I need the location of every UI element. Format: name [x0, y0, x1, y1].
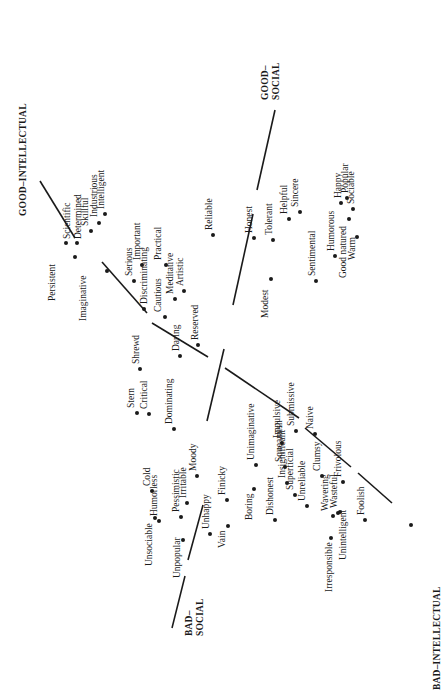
trait-dot [105, 269, 109, 273]
trait-dot [269, 277, 273, 281]
trait-label: Unreliable [298, 461, 308, 501]
trait-dot [226, 524, 230, 528]
trait-dot [195, 474, 199, 478]
trait-dot [252, 487, 256, 491]
trait-dot [138, 367, 142, 371]
trait-label: Scientific [63, 203, 73, 239]
trait-dot [73, 255, 77, 259]
trait-dot [163, 315, 167, 319]
trait-label: Intelligent [97, 170, 107, 209]
trait-dot [287, 217, 291, 221]
trait-dot [178, 354, 182, 358]
trait-dot [182, 289, 186, 293]
trait-label: Reliable [205, 198, 215, 230]
trait-dot [273, 518, 277, 522]
trait-dot [333, 254, 337, 258]
trait-label: Persistent [48, 264, 58, 301]
trait-dot [75, 241, 79, 245]
trait-dot [271, 238, 275, 242]
trait-dot [254, 463, 258, 467]
trait-label: Unsociable [145, 523, 155, 566]
trait-dot [298, 210, 302, 214]
trait-label: Tolerant [265, 203, 275, 235]
trait-label: Naive [306, 406, 316, 429]
trait-label: Vain [218, 531, 228, 548]
trait-diagram: GOOD–INTELLECTUALBAD–INTELLECTUALGOOD–SO… [0, 0, 441, 692]
trait-dot [314, 279, 318, 283]
trait-label: Practical [154, 227, 164, 260]
trait-label: Clumsy [313, 441, 323, 471]
trait-label: Humorless [150, 475, 160, 516]
trait-label: Boring [245, 494, 255, 520]
trait-label: Discriminating [140, 247, 150, 304]
social-good-label: GOOD–SOCIAL [260, 62, 282, 100]
trait-label: Dishonest [266, 477, 276, 515]
trait-label: Dominating [165, 379, 175, 424]
trait-label: Moody [189, 444, 199, 471]
trait-label: Sociable [347, 171, 357, 204]
trait-dot [173, 297, 177, 301]
trait-dot [339, 201, 343, 205]
trait-dot [329, 536, 333, 540]
trait-dot [135, 411, 139, 415]
trait-label: Daring [172, 325, 182, 351]
trait-label: Superficial [286, 448, 296, 490]
trait-dot [142, 307, 146, 311]
trait-label: Imaginative [79, 276, 89, 321]
trait-label: Modest [261, 290, 271, 319]
trait-dot [409, 523, 413, 527]
trait-label: Unhappy [202, 494, 212, 529]
trait-dot [179, 515, 183, 519]
trait-dot [252, 236, 256, 240]
trait-label: Cautious [154, 278, 164, 312]
trait-label: Sincere [291, 179, 301, 208]
axis-lines [0, 0, 441, 692]
trait-label: Helpful [280, 185, 290, 214]
intellectual-good-label: GOOD–INTELLECTUAL [18, 103, 29, 216]
trait-dot [225, 498, 229, 502]
trait-label: Foolish [357, 486, 367, 515]
trait-label: Unintelligent [339, 510, 349, 560]
trait-label: Unimaginative [247, 404, 257, 460]
trait-dot [208, 532, 212, 536]
trait-dot [157, 519, 161, 523]
trait-label: Irresponsible [325, 542, 335, 592]
intellectual-bad-label: BAD–INTELLECTUAL [432, 586, 441, 690]
trait-label: Honest [245, 206, 255, 233]
trait-dot [313, 432, 317, 436]
trait-dot [331, 514, 335, 518]
trait-dot [305, 504, 309, 508]
trait-dot [97, 221, 101, 225]
trait-label: Shrewd [132, 335, 142, 364]
trait-label: Submissive [287, 382, 297, 426]
trait-label: Wasteful [330, 474, 340, 508]
trait-dot [347, 217, 351, 221]
trait-dot [351, 207, 355, 211]
trait-dot [196, 343, 200, 347]
trait-dot [132, 279, 136, 283]
trait-dot [341, 480, 345, 484]
trait-dot [147, 412, 151, 416]
social-axis-line [257, 110, 275, 190]
trait-dot [363, 518, 367, 522]
trait-dot [103, 212, 107, 216]
social-axis-line [207, 349, 224, 421]
trait-dot [211, 233, 215, 237]
trait-dot [64, 241, 68, 245]
trait-dot [153, 516, 157, 520]
trait-label: Humorous [327, 211, 337, 251]
trait-label: Irritable [179, 467, 189, 498]
trait-label: Finicky [218, 466, 228, 495]
trait-dot [172, 427, 176, 431]
trait-label: Warm [348, 237, 358, 260]
trait-label: Artistic [176, 258, 186, 287]
trait-label: Critical [140, 381, 150, 410]
trait-label: Stern [127, 388, 137, 408]
trait-dot [294, 429, 298, 433]
trait-dot [89, 229, 93, 233]
trait-label: Frivolous [334, 441, 344, 477]
trait-label: Unpopular [173, 537, 183, 578]
trait-label: Reserved [191, 305, 201, 340]
social-bad-label: BAD–SOCIAL [184, 598, 206, 636]
trait-dot [185, 501, 189, 505]
